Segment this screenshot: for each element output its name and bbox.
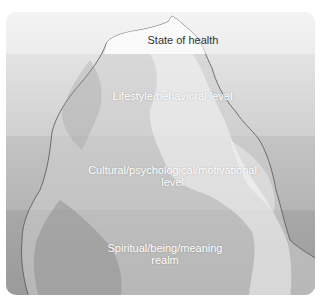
level-label-line1: Spiritual/being/meaning — [90, 242, 240, 254]
label-lifestyle: Lifestyle/behavioral level — [90, 90, 255, 102]
label-cultural: Cultural/psychological/motivational leve… — [60, 164, 285, 188]
level-label: State of health — [148, 34, 219, 46]
level-label-line1: Cultural/psychological/motivational — [60, 164, 285, 176]
level-label: Lifestyle/behavioral level — [113, 90, 233, 102]
level-label-line2: realm — [90, 254, 240, 266]
label-spiritual: Spiritual/being/meaning realm — [90, 242, 240, 266]
label-state-of-health: State of health — [128, 34, 238, 46]
level-label-line2: level — [60, 176, 285, 188]
